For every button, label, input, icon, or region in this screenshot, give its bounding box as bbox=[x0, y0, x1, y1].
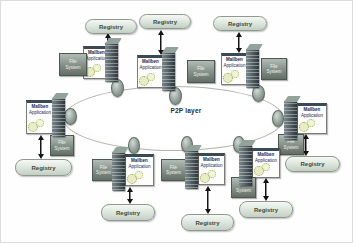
gears-icon bbox=[200, 170, 217, 183]
peer-node-icon bbox=[64, 108, 77, 125]
double-arrow-icon bbox=[204, 186, 211, 214]
file-system-box: File System bbox=[261, 58, 287, 80]
file-system-label: System bbox=[236, 188, 251, 193]
registry-label: Registry bbox=[99, 24, 123, 30]
file-system-box: File System bbox=[187, 60, 215, 83]
registry-node: Registry bbox=[213, 16, 267, 31]
file-system-label: System bbox=[54, 146, 69, 151]
registry-node: Registry bbox=[181, 214, 234, 231]
double-arrow-icon bbox=[37, 135, 44, 159]
server-tower-icon bbox=[185, 149, 198, 189]
peer-node-icon bbox=[272, 110, 284, 127]
file-system-label: System bbox=[96, 170, 111, 175]
server-tower-icon bbox=[105, 42, 118, 82]
registry-label: Registry bbox=[228, 21, 252, 27]
application-box: Mallben Application bbox=[297, 103, 327, 134]
double-arrow-icon bbox=[262, 178, 269, 201]
file-system-label: System bbox=[65, 65, 80, 70]
gears-icon bbox=[85, 64, 102, 77]
server-tower-icon bbox=[52, 97, 65, 137]
server-tower-icon bbox=[246, 48, 259, 88]
double-arrow-icon bbox=[126, 187, 133, 204]
gears-icon bbox=[28, 119, 45, 132]
double-arrow-icon bbox=[235, 32, 242, 53]
gears-icon bbox=[127, 171, 144, 184]
server-tower-icon bbox=[112, 151, 125, 191]
peer-node-icon bbox=[128, 137, 140, 154]
p2p-architecture-diagram: P2P layer Mallben Application File Syste… bbox=[0, 0, 353, 243]
application-label: Application bbox=[27, 110, 53, 116]
server-tower-icon bbox=[162, 51, 175, 91]
application-box: Mallben Application bbox=[221, 53, 248, 85]
application-label: Application bbox=[199, 163, 224, 169]
registry-label: Registry bbox=[300, 161, 324, 167]
file-system-label: System bbox=[193, 72, 208, 77]
application-label: Application bbox=[126, 164, 153, 170]
p2p-layer-label: P2P layer bbox=[146, 107, 226, 114]
application-box: Mallben Application bbox=[198, 153, 225, 185]
registry-label: Registry bbox=[153, 19, 177, 25]
application-box: Mallben Application bbox=[26, 100, 54, 134]
registry-label: Registry bbox=[116, 210, 140, 216]
gears-icon bbox=[299, 119, 316, 132]
registry-label: Registry bbox=[31, 165, 55, 171]
file-system-box: File System bbox=[161, 159, 186, 181]
registry-node: Registry bbox=[239, 201, 293, 218]
gears-icon bbox=[254, 163, 271, 176]
file-system-label: System bbox=[166, 170, 181, 175]
server-tower-icon bbox=[239, 144, 252, 186]
application-label: Application bbox=[138, 65, 163, 71]
file-system-label: System bbox=[283, 145, 298, 150]
gears-icon bbox=[223, 70, 240, 83]
registry-node: Registry bbox=[139, 14, 191, 29]
file-system-box: File System bbox=[59, 53, 87, 76]
registry-label: Registry bbox=[254, 207, 278, 213]
application-box: Mallben Application bbox=[252, 148, 280, 178]
registry-node: Registry bbox=[85, 19, 137, 34]
registry-node: Registry bbox=[15, 159, 72, 176]
file-system-label: System bbox=[266, 69, 281, 74]
application-box: Mallben Application bbox=[137, 55, 164, 88]
file-system-box: File System bbox=[50, 135, 74, 156]
registry-node: Registry bbox=[101, 204, 155, 221]
registry-node: Registry bbox=[285, 156, 340, 172]
application-label: Application bbox=[222, 63, 247, 69]
registry-label: Registry bbox=[195, 220, 219, 226]
application-label: Application bbox=[298, 113, 326, 119]
application-box: Mallben Application bbox=[125, 154, 154, 186]
server-tower-icon bbox=[284, 100, 297, 140]
gears-icon bbox=[139, 73, 156, 86]
